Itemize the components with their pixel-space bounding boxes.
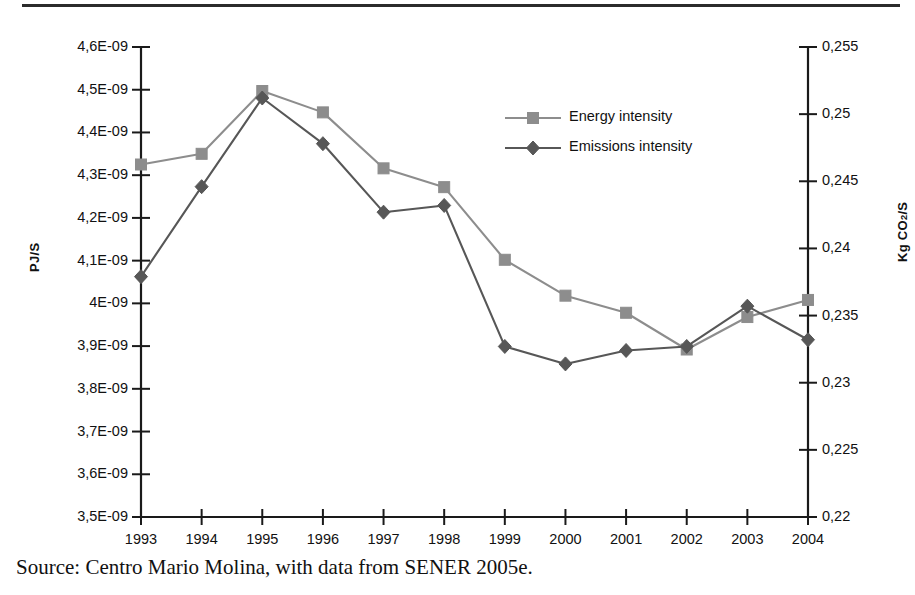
right-tick-label: 0,25 [822, 105, 892, 121]
x-tick-label: 2003 [712, 531, 782, 547]
right-tick-label: 0,24 [822, 239, 892, 255]
right-axis-title-prefix: Kg CO [895, 220, 910, 262]
right-axis-title: Kg CO2/S [895, 202, 910, 262]
line-chart-canvas [0, 0, 915, 560]
source-caption: Source: Centro Mario Molina, with data f… [16, 555, 906, 580]
x-tick-label: 1999 [470, 531, 540, 547]
data-point-diamond [438, 198, 451, 212]
right-tick-label: 0,225 [822, 441, 892, 457]
right-tick-label: 0,255 [822, 38, 892, 54]
legend-label: Emissions intensity [569, 138, 692, 154]
left-tick-label: 4,3E-09 [28, 166, 128, 182]
data-point-diamond [620, 343, 633, 357]
data-point-square [621, 307, 632, 318]
data-point-square [560, 290, 571, 301]
right-tick-label: 0,23 [822, 374, 892, 390]
left-tick-label: 4,4E-09 [28, 123, 128, 139]
x-tick-label: 2001 [591, 531, 661, 547]
left-tick-label: 3,6E-09 [28, 465, 128, 481]
data-point-diamond [498, 339, 511, 353]
data-point-square [378, 163, 389, 174]
legend-label: Energy intensity [569, 108, 672, 124]
x-tick-label: 2004 [773, 531, 843, 547]
legend-marker-diamond [527, 141, 540, 155]
x-tick-label: 1993 [106, 531, 176, 547]
data-point-square [196, 148, 207, 159]
data-point-square [499, 254, 510, 265]
x-tick-label: 2000 [530, 531, 600, 547]
series-layer [135, 86, 815, 371]
data-point-square [439, 182, 450, 193]
data-point-diamond [802, 333, 815, 347]
left-tick-label: 3,7E-09 [28, 423, 128, 439]
left-tick-label: 4,1E-09 [28, 252, 128, 268]
x-tick-label: 1996 [288, 531, 358, 547]
left-tick-label: 4E-09 [28, 294, 128, 310]
data-point-square [803, 294, 814, 305]
x-tick-label: 2002 [652, 531, 722, 547]
right-axis-title-subscript: 2 [899, 215, 909, 221]
x-tick-label: 1997 [349, 531, 419, 547]
right-tick-label: 0,245 [822, 172, 892, 188]
left-tick-label: 3,8E-09 [28, 380, 128, 396]
left-tick-label: 4,5E-09 [28, 81, 128, 97]
chart-figure: PJ/S Kg CO2/S 4,6E-094,5E-094,4E-094,3E-… [0, 0, 915, 560]
legend-layer [505, 113, 561, 156]
data-point-square [136, 159, 147, 170]
x-tick-label: 1995 [227, 531, 297, 547]
right-tick-label: 0,22 [822, 508, 892, 524]
data-point-square [317, 107, 328, 118]
right-tick-label: 0,235 [822, 307, 892, 323]
x-tick-label: 1994 [167, 531, 237, 547]
left-tick-label: 3,9E-09 [28, 337, 128, 353]
series-line-diamond [141, 98, 808, 364]
left-tick-label: 4,6E-09 [28, 38, 128, 54]
legend-marker-square [528, 113, 539, 124]
right-axis-title-suffix: /S [895, 202, 910, 215]
x-tick-label: 1998 [409, 531, 479, 547]
left-tick-label: 4,2E-09 [28, 209, 128, 225]
left-tick-label: 3,5E-09 [28, 508, 128, 524]
data-point-diamond [559, 357, 572, 371]
